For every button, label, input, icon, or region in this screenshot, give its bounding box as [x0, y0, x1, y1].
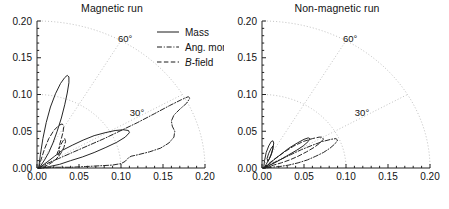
legend-label-2: B-field [185, 57, 213, 68]
polar-ray-60deg [37, 41, 121, 168]
y-tick-label-0: 0.00 [238, 163, 258, 174]
x-tick-label-4: 0.20 [420, 171, 440, 182]
plot-canvas-non-magnetic: 30°60°0.000.050.100.150.200.000.050.100.… [225, 0, 449, 209]
plot-canvas-magnetic: 30°60°0.000.050.100.150.200.000.050.100.… [0, 0, 224, 209]
legend-label-1: Ang. mom. [185, 42, 224, 53]
panel-non-magnetic-run: Non-magnetic run 30°60°0.000.050.100.150… [225, 0, 449, 209]
y-tick-label-4: 0.20 [13, 16, 33, 27]
x-tick-label-1: 0.05 [69, 171, 89, 182]
y-tick-label-1: 0.05 [238, 126, 258, 137]
polar-angle-label-30: 30° [130, 107, 145, 118]
polar-ray-60deg [262, 41, 346, 168]
figure-root: Magnetic run 30°60°0.000.050.100.150.200… [0, 0, 449, 209]
polar-angle-label-60: 60° [343, 33, 358, 44]
y-tick-label-4: 0.20 [238, 16, 258, 27]
y-tick-label-3: 0.15 [238, 52, 258, 63]
polar-angle-label-30: 30° [355, 107, 370, 118]
polar-arc-r0-1 [262, 95, 346, 169]
y-tick-label-2: 0.10 [13, 89, 33, 100]
x-tick-label-1: 0.05 [294, 171, 314, 182]
x-tick-label-2: 0.10 [336, 171, 356, 182]
y-tick-label-1: 0.05 [13, 126, 33, 137]
polar-arc-r0-1 [37, 95, 121, 169]
polar-angle-label-60: 60° [118, 33, 133, 44]
legend-label-0: Mass [185, 27, 209, 38]
x-tick-label-3: 0.15 [153, 171, 173, 182]
y-tick-label-2: 0.10 [238, 89, 258, 100]
panel-magnetic-run: Magnetic run 30°60°0.000.050.100.150.200… [0, 0, 224, 209]
legend: MassAng. mom.B-field [157, 27, 224, 68]
x-tick-label-4: 0.20 [195, 171, 215, 182]
curve-ang-mom [39, 97, 190, 168]
polar-ray-30deg [262, 95, 407, 169]
y-tick-label-3: 0.15 [13, 52, 33, 63]
x-tick-label-3: 0.15 [378, 171, 398, 182]
x-tick-label-2: 0.10 [111, 171, 131, 182]
y-tick-label-0: 0.00 [13, 163, 33, 174]
curve-mass [39, 75, 130, 168]
